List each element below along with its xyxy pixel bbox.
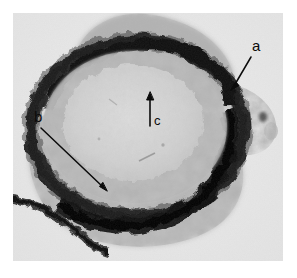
micrograph-canvas <box>13 13 283 261</box>
micrograph-content <box>13 13 283 261</box>
micrograph-image <box>13 13 283 261</box>
film-grain-overlay <box>13 13 283 261</box>
figure-root: a b c <box>0 0 297 278</box>
